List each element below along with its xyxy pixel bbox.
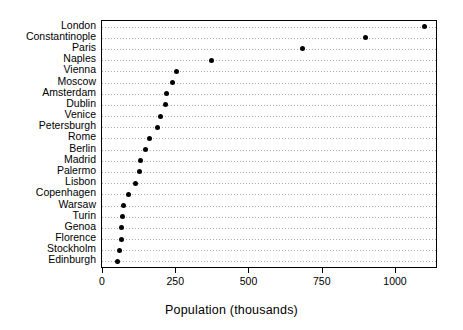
gridline-row <box>102 83 436 84</box>
data-point <box>121 203 126 208</box>
data-point <box>119 225 124 230</box>
x-axis-tick <box>175 268 176 273</box>
x-axis-tick <box>322 268 323 273</box>
x-axis-tick-label: 1000 <box>383 275 406 287</box>
data-point <box>119 237 124 242</box>
category-label: Moscow <box>0 76 96 87</box>
plot-area <box>101 20 437 268</box>
data-point <box>126 192 131 197</box>
data-point <box>422 24 427 29</box>
gridline-row <box>102 150 436 151</box>
gridline-row <box>102 261 436 262</box>
gridline-row <box>102 38 436 39</box>
category-axis-labels: LondonConstantinopleParisNaplesViennaMos… <box>0 20 96 268</box>
category-label: Edinburgh <box>0 254 96 265</box>
gridline-row <box>102 228 436 229</box>
category-label: Rome <box>0 131 96 142</box>
x-axis-title: Population (thousands) <box>0 303 463 317</box>
gridline-row <box>102 161 436 162</box>
data-point <box>133 181 138 186</box>
x-axis-tick <box>102 268 103 273</box>
gridline-row <box>102 71 436 72</box>
data-point <box>163 102 168 107</box>
gridline-row <box>102 217 436 218</box>
gridline-row <box>102 183 436 184</box>
data-point <box>164 91 169 96</box>
gridline-row <box>102 127 436 128</box>
data-point <box>209 58 214 63</box>
gridline-row <box>102 105 436 106</box>
data-point <box>170 80 175 85</box>
gridline-row <box>102 116 436 117</box>
data-point <box>158 114 163 119</box>
data-point <box>300 46 305 51</box>
x-axis-tick-label: 750 <box>313 275 331 287</box>
gridline-row <box>102 27 436 28</box>
dot-chart-figure: LondonConstantinopleParisNaplesViennaMos… <box>0 0 463 330</box>
plot-inner <box>102 21 436 267</box>
category-label: Warsaw <box>0 199 96 210</box>
gridline-row <box>102 239 436 240</box>
data-point <box>115 259 120 264</box>
data-point <box>117 248 122 253</box>
data-point <box>143 147 148 152</box>
gridline-row <box>102 172 436 173</box>
data-point <box>174 69 179 74</box>
gridline-row <box>102 60 436 61</box>
gridline-row <box>102 206 436 207</box>
gridline-row <box>102 138 436 139</box>
gridline-row <box>102 250 436 251</box>
data-point <box>137 169 142 174</box>
category-label: Berlin <box>0 143 96 154</box>
data-point <box>120 214 125 219</box>
x-axis-tick-label: 250 <box>166 275 184 287</box>
category-label: London <box>0 20 96 31</box>
x-axis-tick-label: 0 <box>99 275 105 287</box>
data-point <box>155 125 160 130</box>
data-point <box>147 136 152 141</box>
category-label: Copenhagen <box>0 187 96 198</box>
x-axis: 02505007501000 <box>101 268 437 298</box>
gridline-row <box>102 49 436 50</box>
gridline-row <box>102 94 436 95</box>
category-label: Vienna <box>0 64 96 75</box>
x-axis-tick <box>248 268 249 273</box>
data-point <box>363 35 368 40</box>
data-point <box>138 158 143 163</box>
x-axis-tick <box>395 268 396 273</box>
gridline-row <box>102 194 436 195</box>
x-axis-tick-label: 500 <box>240 275 258 287</box>
